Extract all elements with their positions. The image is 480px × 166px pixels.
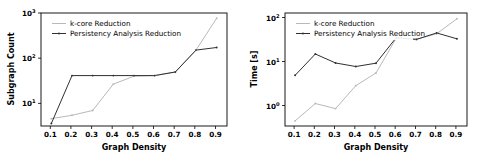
x-tick-label-0-3-right: 0.3: [328, 130, 341, 139]
x-tick-label-0-4: 0.4: [106, 130, 119, 139]
x-tick-label-0-7: 0.7: [168, 130, 181, 139]
panel-subgraph-count: 103 102 101: [0, 0, 240, 166]
legend-marker-persistency-right: [302, 33, 304, 35]
data-point: [112, 83, 114, 85]
y-axis-title-left: Subgraph Count: [7, 32, 16, 105]
data-point: [154, 75, 156, 77]
y-tick-label-100: 102: [22, 53, 36, 63]
data-point: [92, 110, 94, 112]
x-tick-label-0-6: 0.6: [147, 130, 160, 139]
data-point: [415, 38, 417, 40]
data-point: [294, 120, 296, 122]
legend-label-persistency-left: Persistency Analysis Reduction: [70, 29, 181, 38]
y-tick-label-1s: 100: [266, 101, 280, 111]
x-tick-labels-right: 0.1 0.2 0.3 0.4 0.5 0.6 0.7 0.8 0.9: [288, 130, 463, 139]
data-point: [50, 123, 52, 125]
data-point: [314, 53, 316, 55]
y-tick-label-1000: 103: [22, 8, 36, 18]
y-tick-label-100s: 102: [266, 13, 280, 23]
x-tick-label-0-9: 0.9: [209, 130, 222, 139]
x-tick-label-0-5-right: 0.5: [369, 130, 382, 139]
x-tick-label-0-1-right: 0.1: [288, 130, 301, 139]
x-tick-label-0-9-right: 0.9: [450, 130, 463, 139]
figure-two-panel-log-charts: 103 102 101: [0, 0, 480, 166]
data-point: [216, 47, 218, 49]
legend-label-kcore-right: k-core Reduction: [314, 19, 375, 28]
x-tick-label-0-3: 0.3: [85, 130, 98, 139]
y-tick-label-10: 101: [22, 98, 36, 108]
y-ticks-right: [282, 18, 285, 106]
x-tick-label-0-8: 0.8: [188, 130, 201, 139]
data-point: [71, 75, 73, 77]
x-axis-title-left: Graph Density: [102, 143, 167, 152]
subgraph-count-chart: 103 102 101: [0, 0, 240, 166]
data-point: [335, 62, 337, 64]
data-point: [375, 62, 377, 64]
data-point: [133, 75, 135, 77]
data-point: [335, 108, 337, 110]
x-tick-labels-left: 0.1 0.2 0.3 0.4 0.5 0.6 0.7 0.8 0.9: [44, 130, 222, 139]
data-point: [50, 118, 52, 120]
legend-label-kcore-left: k-core Reduction: [70, 19, 131, 28]
panel-runtime: 102 101 100: [240, 0, 480, 166]
data-point: [436, 32, 438, 34]
x-axis-title-right: Graph Density: [344, 143, 409, 152]
data-point: [195, 49, 197, 51]
legend-left: k-core Reduction Persistency Analysis Re…: [47, 16, 181, 40]
runtime-chart: 102 101 100: [240, 0, 480, 166]
legend-right: k-core Reduction Persistency Analysis Re…: [291, 16, 425, 40]
y-tick-labels-left: 103 102 101: [22, 8, 36, 108]
x-tick-label-0-6-right: 0.6: [389, 130, 402, 139]
data-point: [456, 18, 458, 20]
data-point: [355, 85, 357, 87]
legend-label-persistency-right: Persistency Analysis Reduction: [314, 29, 425, 38]
series-markers-persistency-left: [50, 47, 217, 125]
data-point: [294, 74, 296, 76]
data-point: [355, 66, 357, 68]
legend-marker-persistency-left: [58, 33, 60, 35]
x-tick-label-0-5: 0.5: [127, 130, 140, 139]
x-tick-label-0-4-right: 0.4: [348, 130, 361, 139]
x-tick-label-0-2: 0.2: [65, 130, 78, 139]
x-tick-label-0-1: 0.1: [44, 130, 57, 139]
x-tick-label-0-7-right: 0.7: [409, 130, 422, 139]
series-line-persistency-left: [51, 48, 216, 124]
data-point: [174, 71, 176, 73]
data-point: [456, 38, 458, 40]
y-tick-labels-right: 102 101 100: [266, 13, 280, 111]
data-point: [92, 75, 94, 77]
x-tick-label-0-8-right: 0.8: [429, 130, 442, 139]
data-point: [314, 103, 316, 105]
data-point: [71, 114, 73, 116]
y-tick-label-10s: 101: [266, 57, 280, 67]
data-point: [216, 17, 218, 19]
data-point: [375, 72, 377, 74]
x-tick-label-0-2-right: 0.2: [308, 130, 321, 139]
data-point: [112, 75, 114, 77]
y-axis-title-right: Time [s]: [250, 51, 259, 88]
